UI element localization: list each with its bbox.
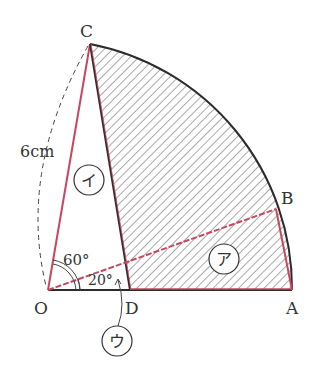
radius-dimension-arc xyxy=(38,46,88,286)
angle-20-mark xyxy=(78,279,80,290)
pointer-arrow-u xyxy=(118,280,122,326)
label-A: A xyxy=(285,298,299,318)
angle-label-60: 60° xyxy=(63,251,90,269)
region-label-i: イ xyxy=(74,165,104,195)
svg-text:イ: イ xyxy=(81,171,97,190)
length-label-6cm: 6cm xyxy=(20,142,54,161)
label-B: B xyxy=(281,188,294,208)
region-label-u: ウ xyxy=(102,326,132,356)
svg-text:ア: ア xyxy=(216,250,232,269)
angle-label-20: 20° xyxy=(88,272,113,288)
shaded-region xyxy=(90,44,292,290)
region-label-a: ア xyxy=(209,244,239,274)
svg-text:ウ: ウ xyxy=(109,332,125,351)
label-O: O xyxy=(34,298,48,318)
label-C: C xyxy=(80,21,93,41)
label-D: D xyxy=(125,298,139,318)
geometry-figure: C B O D A 6cm 60° 20° イ ア ウ xyxy=(0,0,318,374)
arrowhead-icon xyxy=(115,279,121,285)
